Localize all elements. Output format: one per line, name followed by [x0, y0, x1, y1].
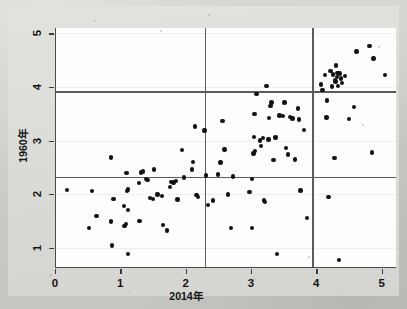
scatter-point	[141, 169, 145, 173]
gridline-y-3	[56, 141, 396, 142]
scatter-point	[180, 148, 184, 152]
scatter-point	[196, 195, 200, 199]
scatter-point	[126, 187, 130, 191]
scatter-point	[324, 115, 328, 119]
scatter-point	[220, 119, 224, 123]
y-tick-label-5: 5	[31, 30, 43, 36]
scatter-point	[347, 117, 351, 121]
scatter-point	[337, 71, 341, 75]
scatter-point	[267, 116, 271, 120]
scatter-point	[226, 192, 230, 196]
scatter-point	[290, 116, 294, 120]
scan-speck	[338, 290, 340, 292]
scatter-point	[352, 105, 356, 109]
gridline-y-4	[56, 87, 396, 88]
scatter-point	[334, 63, 338, 67]
y-tick-mark-2	[49, 194, 54, 195]
scatter-point	[325, 98, 329, 102]
y-tick-label-3: 3	[31, 137, 43, 143]
scatter-point	[250, 177, 254, 181]
scatter-point	[271, 158, 275, 162]
scatter-point	[87, 226, 91, 230]
scatter-point	[273, 135, 277, 139]
scatter-point	[370, 150, 374, 154]
scatter-point	[330, 84, 334, 88]
scatter-point	[252, 112, 256, 116]
scatter-point	[383, 73, 387, 77]
scatter-point	[263, 200, 267, 204]
scatter-point	[286, 152, 290, 156]
scatter-point	[281, 114, 285, 118]
x-axis-title: 2014年	[169, 288, 202, 303]
gridline-y-1	[56, 248, 396, 249]
scatter-point	[111, 197, 115, 201]
scatter-point	[305, 216, 309, 220]
scatter-point	[137, 181, 141, 185]
scatter-point	[90, 189, 94, 193]
scatter-point	[126, 208, 130, 212]
y-tick-mark-3	[49, 141, 54, 142]
scatter-point	[222, 147, 226, 151]
scatter-point	[168, 185, 172, 189]
scatter-point	[182, 175, 186, 179]
scatter-point	[293, 157, 297, 161]
scatter-point	[326, 195, 330, 199]
scatter-point	[254, 92, 258, 96]
scatter-point	[155, 192, 159, 196]
reference-line-vertical-2	[312, 28, 314, 267]
scatter-point	[191, 160, 195, 164]
scatter-point	[323, 73, 327, 77]
x-tick-label-0: 0	[52, 277, 58, 289]
scatter-point	[175, 197, 179, 201]
scatter-point	[340, 81, 344, 85]
scatter-point	[269, 100, 273, 104]
x-tick-label-5: 5	[378, 277, 384, 289]
x-tick-mark-3	[251, 269, 252, 274]
y-tick-label-1: 1	[31, 244, 43, 250]
scan-speck	[128, 290, 130, 292]
scatter-point	[193, 124, 197, 128]
scatter-point	[65, 188, 69, 192]
scatter-point	[247, 190, 251, 194]
scatter-point	[250, 226, 254, 230]
scatter-point	[122, 204, 126, 208]
plot-panel	[55, 28, 396, 268]
scatter-point	[275, 252, 279, 256]
scan-speck	[160, 30, 162, 32]
scatter-point	[367, 44, 371, 48]
scatter-point	[282, 100, 286, 104]
x-tick-mark-2	[186, 269, 187, 274]
scatter-point	[259, 144, 263, 148]
scatter-point	[261, 136, 265, 140]
scan-speck	[362, 124, 364, 126]
scatter-point	[354, 49, 358, 53]
scatter-point	[297, 117, 301, 121]
scatter-point	[190, 167, 194, 171]
scatter-point	[204, 173, 208, 177]
scan-speck	[378, 46, 380, 48]
scan-speck	[254, 278, 256, 280]
plot-area	[56, 28, 396, 267]
scatter-point	[160, 194, 164, 198]
reference-line-vertical-1	[205, 28, 207, 267]
scatter-point	[319, 82, 323, 86]
reference-line-horizontal-2	[56, 91, 396, 93]
y-tick-mark-1	[49, 248, 54, 249]
scatter-point	[320, 88, 324, 92]
scatter-point	[284, 146, 288, 150]
x-tick-mark-4	[316, 269, 317, 274]
scatter-point	[124, 222, 128, 226]
scatter-point	[343, 74, 347, 78]
scan-speck	[208, 14, 210, 16]
scanned-page-background: 012345 12345 2014年 1960年	[0, 0, 407, 309]
x-tick-mark-5	[382, 269, 383, 274]
y-axis-title: 1960年	[15, 129, 30, 162]
reference-line-horizontal-1	[56, 177, 396, 179]
scatter-point	[211, 198, 215, 202]
x-tick-label-4: 4	[313, 277, 319, 289]
scatter-point	[302, 128, 306, 132]
scatter-point	[298, 188, 302, 192]
y-tick-label-4: 4	[31, 84, 43, 90]
x-tick-mark-0	[55, 269, 56, 274]
scatter-point	[126, 252, 130, 256]
